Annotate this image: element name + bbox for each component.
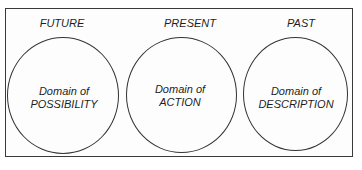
time-label-present: PRESENT <box>164 18 216 29</box>
domain-line2: DESCRIPTION <box>258 98 333 111</box>
time-label-past: PAST <box>287 18 315 29</box>
domain-line2: POSSIBILITY <box>30 98 97 111</box>
domain-text-action: Domain of ACTION <box>155 83 205 109</box>
domain-line1: Domain of <box>155 83 205 96</box>
domain-text-description: Domain of DESCRIPTION <box>258 85 333 111</box>
domain-text-possibility: Domain of POSSIBILITY <box>30 85 97 111</box>
domain-line1: Domain of <box>30 85 97 98</box>
domain-line2: ACTION <box>155 96 205 109</box>
domain-line1: Domain of <box>258 85 333 98</box>
time-label-future: FUTURE <box>40 18 85 29</box>
